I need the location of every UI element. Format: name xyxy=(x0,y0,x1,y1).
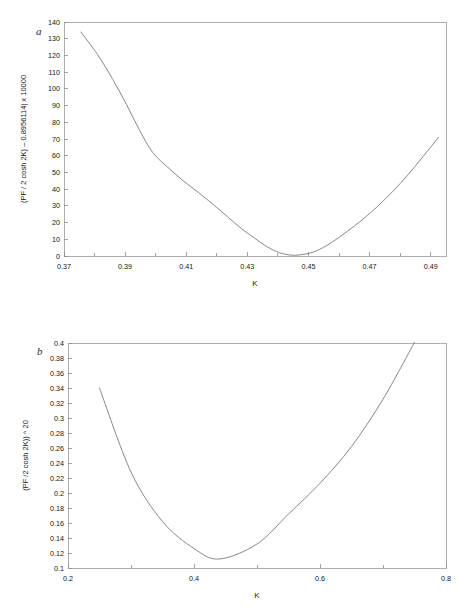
x-tick-label-a-2: 0.41 xyxy=(179,262,193,271)
y-tick-label-b-8: 0.26 xyxy=(50,444,64,453)
y-tick-label-a-8: 80 xyxy=(52,118,60,127)
y-tick-label-b-15: 0.4 xyxy=(54,339,64,348)
data-curve-b xyxy=(100,342,415,559)
y-tick-label-b-2: 0.14 xyxy=(50,534,64,543)
x-tick-label-a-3: 0.43 xyxy=(240,262,254,271)
x-axis-title-a: K xyxy=(252,279,258,288)
y-tick-label-b-9: 0.28 xyxy=(50,429,64,438)
y-tick-label-b-14: 0.38 xyxy=(50,354,64,363)
x-tick-label-b-3: 0.8 xyxy=(441,574,451,583)
y-axis-title-b: (PF /2 cosh 2K)) ^ 20 xyxy=(21,420,30,491)
y-tick-label-b-6: 0.22 xyxy=(50,474,64,483)
y-tick-label-b-11: 0.32 xyxy=(50,399,64,408)
y-tick-label-b-3: 0.16 xyxy=(50,519,64,528)
y-tick-label-b-7: 0.24 xyxy=(50,459,64,468)
data-curve-a xyxy=(81,32,439,255)
y-axis-title-a: (PF / 2 cosh 2K) – 0.8956114| x 10000 xyxy=(19,75,28,203)
x-axis-title-b: K xyxy=(254,591,260,600)
y-tick-label-a-1: 10 xyxy=(52,235,60,244)
y-tick-label-a-10: 100 xyxy=(48,84,60,93)
y-tick-label-a-7: 70 xyxy=(52,135,60,144)
x-tick-label-a-0: 0.37 xyxy=(57,262,71,271)
y-tick-label-a-2: 20 xyxy=(52,218,60,227)
y-tick-label-a-12: 120 xyxy=(48,51,60,60)
x-tick-label-a-1: 0.39 xyxy=(118,262,132,271)
x-tick-label-b-0: 0.2 xyxy=(63,574,73,583)
y-tick-label-b-13: 0.36 xyxy=(50,369,64,378)
x-tick-label-a-6: 0.49 xyxy=(424,262,438,271)
y-tick-label-a-11: 110 xyxy=(49,68,60,77)
x-tick-label-b-1: 0.4 xyxy=(189,574,199,583)
plot-panel-b: b 0.10.120.140.160.180.20.220.240.260.28… xyxy=(0,300,462,608)
plot-a-canvas: 01020304050607080901001101201301400.370.… xyxy=(0,0,462,300)
y-tick-label-b-1: 0.12 xyxy=(50,549,64,558)
x-tick-label-b-2: 0.6 xyxy=(315,574,325,583)
y-tick-label-b-0: 0.1 xyxy=(54,564,64,573)
plot-b-canvas: 0.10.120.140.160.180.20.220.240.260.280.… xyxy=(0,300,462,608)
y-tick-label-a-5: 50 xyxy=(52,168,60,177)
y-tick-label-b-10: 0.3 xyxy=(54,414,64,423)
y-tick-label-a-0: 0 xyxy=(56,252,60,261)
figure-container: a 01020304050607080901001101201301400.37… xyxy=(0,0,462,608)
y-tick-label-a-6: 60 xyxy=(52,151,60,160)
x-tick-label-a-5: 0.47 xyxy=(363,262,377,271)
y-tick-label-a-3: 30 xyxy=(52,201,60,210)
y-tick-label-b-5: 0.2 xyxy=(54,489,64,498)
plot-frame-b xyxy=(68,343,446,568)
y-tick-label-a-13: 130 xyxy=(48,34,60,43)
plot-frame-a xyxy=(64,22,446,256)
y-tick-label-a-4: 40 xyxy=(52,185,60,194)
y-tick-label-a-14: 140 xyxy=(48,18,60,27)
y-tick-label-a-9: 90 xyxy=(52,101,60,110)
y-tick-label-b-4: 0.18 xyxy=(50,504,64,513)
plot-panel-a: a 01020304050607080901001101201301400.37… xyxy=(0,0,462,300)
x-tick-label-a-4: 0.45 xyxy=(301,262,315,271)
y-tick-label-b-12: 0.34 xyxy=(50,384,64,393)
